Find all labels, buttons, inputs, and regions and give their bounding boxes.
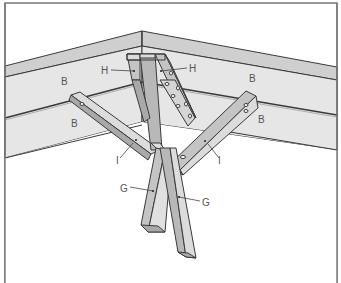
label-B-left-lower: B — [71, 118, 78, 129]
label-G-right: G — [202, 197, 210, 208]
diagram-frame: B B B B H H I I G G — [0, 0, 341, 283]
label-B-right-lower: B — [258, 114, 265, 125]
label-I-left: I — [116, 155, 119, 166]
roof-bracing-diagram: B B B B H H I I G G — [0, 0, 341, 283]
label-G-left: G — [120, 183, 128, 194]
label-H-left: H — [101, 65, 108, 76]
label-H-right: H — [189, 63, 196, 74]
label-B-right-upper: B — [249, 73, 256, 84]
label-I-right: I — [218, 155, 221, 166]
label-B-left-upper: B — [61, 76, 68, 87]
